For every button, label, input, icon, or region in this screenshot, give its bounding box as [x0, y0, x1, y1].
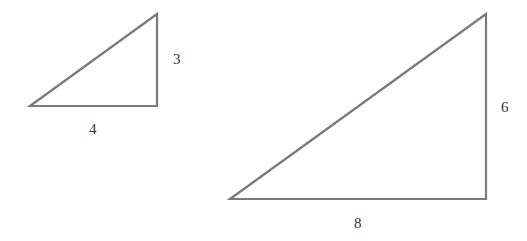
small-triangle: [30, 14, 157, 106]
triangles-drawing: [0, 0, 527, 241]
diagram-canvas: 3 4 6 8: [0, 0, 527, 241]
large-triangle-vertical-label: 6: [501, 100, 509, 115]
large-triangle-horizontal-label: 8: [354, 216, 362, 231]
small-triangle-vertical-label: 3: [173, 52, 181, 67]
large-triangle: [230, 14, 486, 199]
small-triangle-horizontal-label: 4: [89, 122, 97, 137]
